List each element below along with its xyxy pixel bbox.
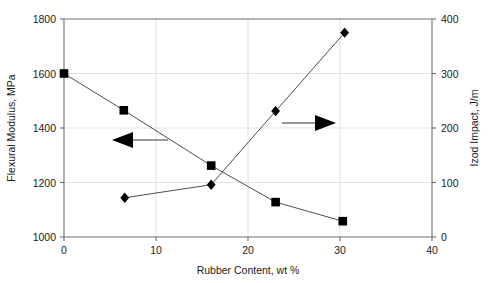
y-tick-label: 1800 <box>33 13 57 25</box>
gridlines-group <box>64 19 432 237</box>
x-tick-label: 30 <box>334 244 346 256</box>
y-tick-label: 1400 <box>33 122 57 134</box>
y2-tick-label: 0 <box>441 231 447 243</box>
x-tick-label: 20 <box>242 244 254 256</box>
x-tick-label: 10 <box>150 244 162 256</box>
chart-svg: 010203040 10001200140016001800 010020030… <box>0 0 489 283</box>
left-arrow-head-icon <box>112 132 133 148</box>
data-series-group <box>60 27 349 225</box>
data-point-square <box>60 69 69 78</box>
y-tick-label: 1600 <box>33 68 57 80</box>
y2-tick-label: 400 <box>441 13 459 25</box>
x-axis-ticks: 010203040 <box>61 237 438 256</box>
y-axis-title: Flexural Modulus, MPa <box>5 74 17 182</box>
y2-tick-label: 100 <box>441 177 459 189</box>
series-line <box>64 74 343 222</box>
y2-tick-label: 300 <box>441 68 459 80</box>
data-point-square <box>271 198 280 207</box>
y2-tick-label: 200 <box>441 122 459 134</box>
x-tick-label: 40 <box>426 244 438 256</box>
y2-axis-title: Izod Impact, J/m <box>468 89 480 166</box>
x-tick-label: 0 <box>61 244 67 256</box>
annotations-group <box>112 115 336 148</box>
x-axis-title: Rubber Content, wt % <box>197 264 300 276</box>
chart-figure: 010203040 10001200140016001800 010020030… <box>0 0 489 283</box>
y-axis-ticks: 10001200140016001800 <box>33 13 64 243</box>
y-tick-label: 1000 <box>33 231 57 243</box>
right-arrow-head-icon <box>315 115 336 131</box>
y2-axis-ticks: 0100200300400 <box>432 13 459 243</box>
series-line <box>125 33 345 198</box>
data-point-square <box>338 217 347 226</box>
data-point-diamond <box>120 193 129 203</box>
data-point-square <box>207 161 216 170</box>
y-tick-label: 1200 <box>33 177 57 189</box>
data-point-square <box>120 106 129 115</box>
